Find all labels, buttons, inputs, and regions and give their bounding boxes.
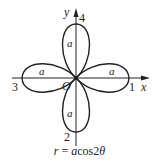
petal-length-label-bottom: a xyxy=(67,107,73,119)
petal-number-left: 3 xyxy=(12,80,18,94)
x-axis-label: x xyxy=(140,80,147,94)
caption-cos: cos xyxy=(77,144,93,158)
petal-number-top: 4 xyxy=(79,11,85,25)
equation-caption: r = acos2θ xyxy=(0,144,159,159)
caption-equals: = xyxy=(58,144,71,158)
caption-theta: θ xyxy=(99,144,105,158)
petal-number-bottom: 2 xyxy=(64,130,70,144)
petal-number-right: 1 xyxy=(129,80,135,94)
rose-curve-figure: y x O 4 1 3 2 a a a a xyxy=(0,0,159,162)
y-axis-label: y xyxy=(63,5,70,19)
petal-length-label-left: a xyxy=(39,65,45,77)
origin-label: O xyxy=(62,79,71,93)
petal-length-label-right: a xyxy=(109,65,115,77)
y-axis-arrow-icon xyxy=(74,8,79,17)
petal-length-label-top: a xyxy=(67,37,73,49)
origin-point xyxy=(74,76,78,80)
